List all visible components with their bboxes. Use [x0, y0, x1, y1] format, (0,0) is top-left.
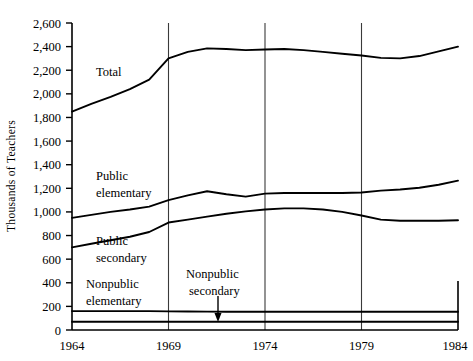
x-tick-label-1964: 1964	[60, 339, 86, 353]
series-line-nonpublic-elementary	[72, 311, 458, 312]
teachers-line-chart: Thousands of Teachers 02004006008001,000…	[0, 0, 473, 361]
y-tick-label-600: 600	[42, 253, 61, 267]
y-axis-title: Thousands of Teachers	[5, 120, 17, 232]
x-tick-label-1979: 1979	[349, 339, 374, 353]
y-tick-label-1,400: 1,400	[33, 158, 61, 172]
y-tick-label-1,200: 1,200	[33, 182, 61, 196]
series-label-total: Total	[96, 65, 122, 79]
series-label-public-elementary-line2: elementary	[96, 186, 152, 200]
series-label-nonpublic-secondary-line2: secondary	[189, 284, 240, 298]
series-label-nonpublic-secondary-line1: Nonpublic	[186, 267, 239, 281]
series-label-public-secondary-line2: secondary	[96, 251, 147, 265]
y-tick-label-400: 400	[42, 276, 61, 290]
chart-container: Thousands of Teachers 02004006008001,000…	[0, 0, 473, 361]
y-tick-label-0: 0	[55, 324, 61, 338]
y-tick-label-2,400: 2,400	[33, 40, 61, 54]
y-tick-label-800: 800	[42, 229, 61, 243]
y-tick-label-1,800: 1,800	[33, 111, 61, 125]
y-tick-label-1,000: 1,000	[33, 205, 61, 219]
y-tick-label-1,600: 1,600	[33, 135, 61, 149]
series-label-nonpublic-elementary-line2: elementary	[86, 294, 142, 308]
series-label-public-secondary-line1: Public	[96, 234, 128, 248]
y-tick-label-2,000: 2,000	[33, 87, 61, 101]
y-tick-label-2,200: 2,200	[33, 64, 61, 78]
y-tick-label-2,600: 2,600	[33, 17, 61, 31]
y-tick-label-200: 200	[42, 300, 61, 314]
x-tick-label-1974: 1974	[253, 339, 279, 353]
x-tick-label-1984: 1984	[443, 339, 469, 353]
x-tick-label-1969: 1969	[156, 339, 181, 353]
series-label-nonpublic-elementary-line1: Nonpublic	[86, 277, 139, 291]
series-label-public-elementary-line1: Public	[96, 169, 128, 183]
